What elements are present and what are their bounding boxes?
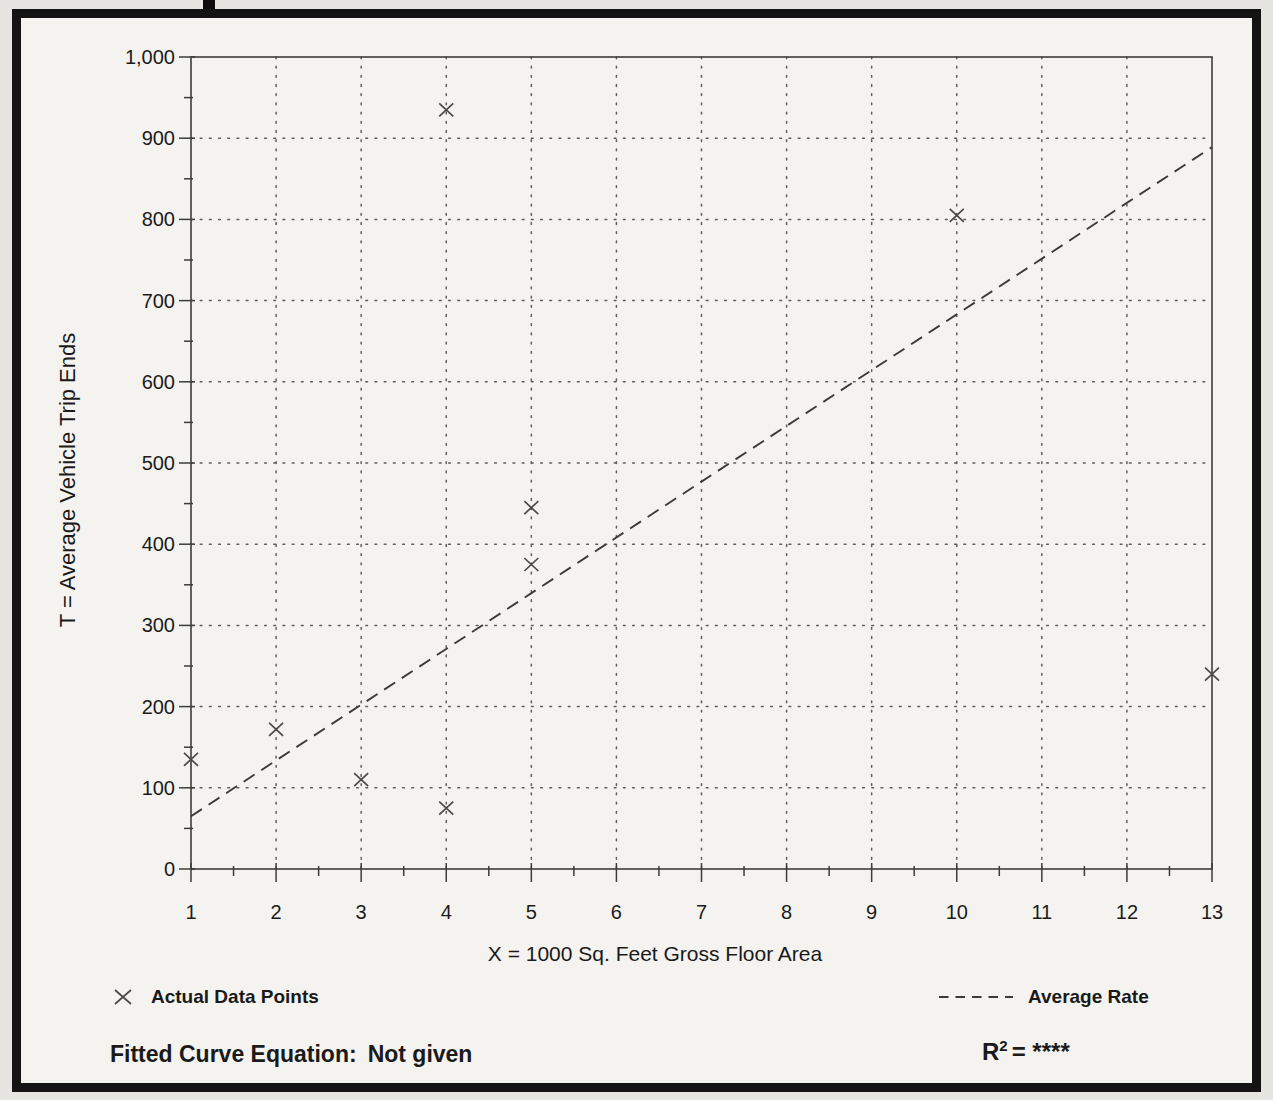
fitted-curve-equation-value: Not given [368,1041,473,1067]
dashed-line-icon [938,993,1014,1001]
x-axis-tick-label: 4 [441,901,452,923]
r-squared-value: = **** [1012,1038,1070,1065]
r-squared-base: R [982,1038,999,1065]
data-point-marker [524,558,538,571]
x-axis-tick-label: 3 [356,901,367,923]
trip-generation-scatter-chart: 1234567891011121301002003004005006007008… [0,0,1273,1100]
legend-label-average-rate: Average Rate [1028,986,1149,1008]
y-axis-tick-label: 200 [142,696,175,718]
data-point-marker [524,501,538,514]
r-squared-statistic: R2= **** [982,1037,1070,1066]
fitted-curve-equation: Fitted Curve Equation:Not given [110,1041,472,1068]
x-axis-tick-label: 1 [185,901,196,923]
x-axis-tick-label: 10 [946,901,968,923]
legend-item-average-rate: Average Rate [938,986,1149,1008]
report-page: 1234567891011121301002003004005006007008… [0,0,1273,1100]
y-axis-tick-label: 400 [142,533,175,555]
x-axis-tick-label: 9 [866,901,877,923]
x-marker-icon [112,987,134,1007]
fitted-curve-equation-label: Fitted Curve Equation: [110,1041,357,1067]
x-axis-tick-label: 2 [271,901,282,923]
legend-item-actual-data-points: Actual Data Points [112,986,319,1008]
y-axis-tick-label: 900 [142,127,175,149]
x-axis-tick-label: 7 [696,901,707,923]
y-axis-tick-label: 800 [142,208,175,230]
data-point-marker [269,723,283,736]
y-axis-tick-label: 600 [142,371,175,393]
y-axis-tick-label: 100 [142,777,175,799]
x-axis-tick-label: 11 [1031,901,1052,923]
x-axis-tick-label: 8 [781,901,792,923]
y-axis-tick-label: 1,000 [125,46,175,68]
y-axis-tick-label: 0 [164,858,175,880]
y-axis-tick-label: 500 [142,452,175,474]
x-axis-tick-label: 13 [1201,901,1223,923]
y-axis-tick-label: 700 [142,290,175,312]
x-axis-tick-label: 6 [611,901,622,923]
y-axis-title: T = Average Vehicle Trip Ends [55,333,81,628]
y-axis-tick-label: 300 [142,614,175,636]
x-axis-tick-label: 5 [526,901,537,923]
x-axis-title: X = 1000 Sq. Feet Gross Floor Area [488,942,822,966]
r-squared-exponent: 2 [999,1037,1007,1054]
average-rate-line [191,147,1212,816]
legend-label-actual-data-points: Actual Data Points [151,986,319,1008]
x-axis-tick-label: 12 [1116,901,1138,923]
